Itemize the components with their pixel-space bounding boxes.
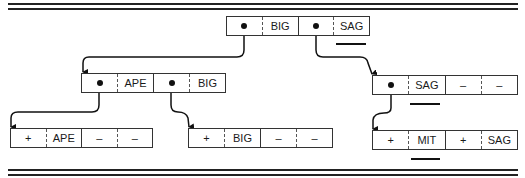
pointer-dot-icon xyxy=(169,80,175,86)
leaf1-flag-2: – xyxy=(81,129,117,147)
root-node: BIG SAG xyxy=(226,16,370,36)
right-key-1: SAG xyxy=(408,76,444,94)
leaf3-mit-underline xyxy=(411,158,440,160)
left-key-2: BIG xyxy=(189,74,225,92)
leaf2-flag-1: + xyxy=(189,129,224,147)
pointer-dot-icon xyxy=(388,82,394,88)
leaf3-flag-1: + xyxy=(373,131,408,149)
root-pointer-1 xyxy=(227,17,262,35)
leaf1-key-1: APE xyxy=(46,129,82,147)
leaf1-key-2: – xyxy=(117,129,153,147)
leaf-node-2: + BIG – – xyxy=(188,128,333,148)
root-pointer-2 xyxy=(298,17,334,35)
root-key-2: SAG xyxy=(333,17,369,35)
left-internal-node: APE BIG xyxy=(81,73,226,93)
root-key-1: BIG xyxy=(262,17,298,35)
right-sag-underline xyxy=(410,103,440,105)
leaf2-key-2: – xyxy=(296,129,332,147)
right-internal-node: SAG – – xyxy=(372,75,518,95)
right-flag-2: – xyxy=(445,76,481,94)
left-key-1: APE xyxy=(117,74,153,92)
pointer-dot-icon xyxy=(97,80,103,86)
leaf2-flag-2: – xyxy=(260,129,296,147)
leaf2-key-1: BIG xyxy=(224,129,260,147)
leaf3-key-1: MIT xyxy=(408,131,444,149)
left-pointer-1 xyxy=(82,74,117,92)
leaf3-flag-2: + xyxy=(445,131,481,149)
leaf3-key-2: SAG xyxy=(481,131,517,149)
leaf1-flag-1: + xyxy=(11,129,46,147)
left-pointer-2 xyxy=(153,74,189,92)
leaf-node-3: + MIT + SAG xyxy=(372,130,518,150)
leaf-node-1: + APE – – xyxy=(10,128,153,148)
edge-root-to-left xyxy=(83,26,244,72)
right-pointer-1 xyxy=(373,76,408,94)
pointer-dot-icon xyxy=(313,23,319,29)
pointer-dot-icon xyxy=(241,23,247,29)
root-sag-underline xyxy=(336,43,366,45)
right-key-2: – xyxy=(481,76,517,94)
